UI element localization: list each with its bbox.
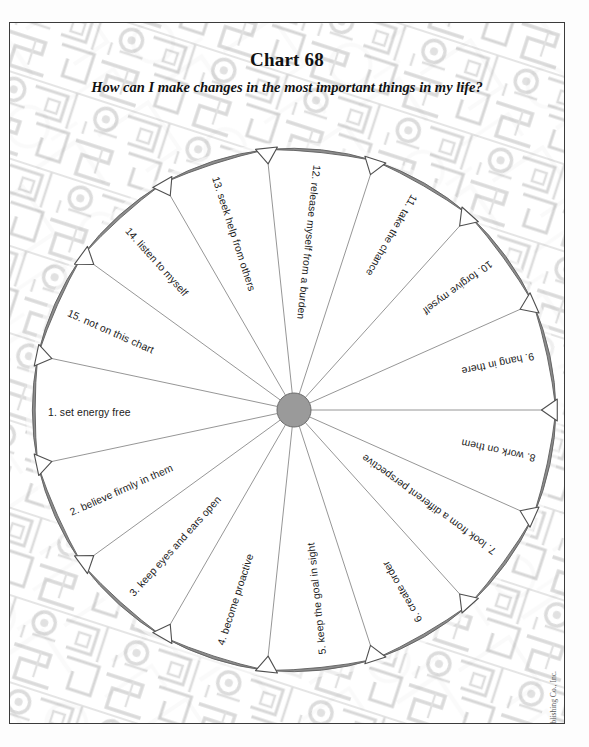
page-canvas: Chart 68 How can I make changes in the m… [0, 0, 589, 747]
wheel-diagram: 1. set energy free2. believe firmly in t… [10, 23, 564, 723]
copyright-text: © Sterling Publishing Co., Inc. [549, 671, 558, 724]
printed-page-frame: Chart 68 How can I make changes in the m… [9, 22, 565, 724]
copyright-notice: © Sterling Publishing Co., Inc. [549, 671, 558, 724]
sector-label: 1. set energy free [48, 407, 131, 418]
wheel-hub [277, 393, 311, 427]
